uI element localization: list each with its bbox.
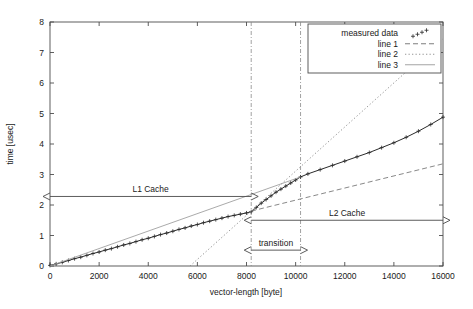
- data-point-marker: [140, 238, 144, 242]
- annotation-label-transition: transition: [259, 238, 294, 248]
- data-point-marker: [238, 212, 242, 216]
- x-tick-label: 6000: [188, 271, 207, 281]
- legend-label-line-1: line 1: [378, 39, 399, 49]
- data-point-marker: [146, 236, 150, 240]
- data-point-marker: [355, 155, 359, 159]
- y-tick-label: 3: [39, 170, 44, 180]
- data-point-marker: [404, 135, 408, 139]
- data-point-marker: [220, 216, 224, 220]
- legend-label-line-3: line 3: [378, 60, 399, 70]
- y-tick-label: 0: [39, 261, 44, 271]
- x-tick-label: 0: [48, 271, 53, 281]
- data-point-marker: [214, 218, 218, 222]
- line-chart: 0200040006000800010000120001400016000 01…: [0, 0, 473, 309]
- data-point-marker: [159, 233, 163, 237]
- y-tick-label: 4: [39, 139, 44, 149]
- data-point-marker: [91, 251, 95, 255]
- data-point-marker: [122, 243, 126, 247]
- annotation-label-l1-cache: L1 Cache: [132, 184, 169, 194]
- data-point-marker: [97, 250, 101, 254]
- data-point-marker: [85, 253, 89, 257]
- data-point-marker: [165, 231, 169, 235]
- data-point-marker: [195, 223, 199, 227]
- data-point-marker: [202, 221, 206, 225]
- x-tick-label: 4000: [139, 271, 158, 281]
- x-tick-label: 10000: [284, 271, 308, 281]
- legend-label-line-2: line 2: [378, 49, 399, 59]
- y-axis-title: time [usec]: [5, 123, 15, 164]
- y-tick-label: 8: [39, 17, 44, 27]
- annotations-group: L1 CacheL2 Cachetransition: [50, 184, 443, 250]
- series-line-line-3: [50, 177, 301, 266]
- y-tick-label: 7: [39, 48, 44, 58]
- data-point-marker: [171, 229, 175, 233]
- x-axis-title: vector-length [byte]: [210, 287, 282, 297]
- data-point-marker: [109, 247, 113, 251]
- annotation-label-l2-cache: L2 Cache: [329, 208, 366, 218]
- data-point-marker: [128, 241, 132, 245]
- data-point-marker: [183, 226, 187, 230]
- y-tick-label: 5: [39, 109, 44, 119]
- chart-container: 0200040006000800010000120001400016000 01…: [0, 0, 473, 309]
- x-tick-label: 16000: [431, 271, 455, 281]
- y-tick-label: 1: [39, 231, 44, 241]
- legend-label-measured-data: measured data: [341, 28, 398, 38]
- x-tick-label: 8000: [237, 271, 256, 281]
- data-point-marker: [343, 159, 347, 163]
- data-point-marker: [177, 227, 181, 231]
- vertical-marker-lines: [251, 22, 300, 266]
- data-point-marker: [189, 224, 193, 228]
- data-point-marker: [208, 219, 212, 223]
- series-line-line-1: [251, 164, 443, 211]
- data-point-marker: [380, 146, 384, 150]
- series-line-measured-data: [50, 117, 443, 265]
- legend: measured dataline 1line 2line 3: [308, 24, 441, 73]
- data-point-marker: [306, 172, 310, 176]
- data-point-marker: [318, 168, 322, 172]
- data-point-marker: [103, 248, 107, 252]
- data-point-marker: [226, 215, 230, 219]
- data-point-marker: [116, 245, 120, 249]
- data-point-marker: [330, 163, 334, 167]
- y-tick-label: 2: [39, 200, 44, 210]
- data-point-marker: [152, 234, 156, 238]
- data-point-marker: [392, 141, 396, 145]
- x-tick-label: 14000: [382, 271, 406, 281]
- x-tick-label: 12000: [333, 271, 357, 281]
- data-point-marker: [232, 213, 236, 217]
- data-point-marker: [367, 151, 371, 155]
- data-point-marker: [416, 129, 420, 133]
- data-point-marker: [134, 240, 138, 244]
- y-tick-label: 6: [39, 78, 44, 88]
- x-tick-label: 2000: [90, 271, 109, 281]
